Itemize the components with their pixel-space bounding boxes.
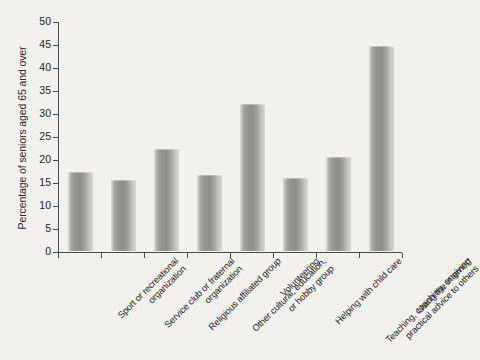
y-tick: 25: [58, 137, 59, 138]
y-tick: 5: [58, 229, 59, 230]
y-tick-mark: [53, 206, 58, 207]
y-tick-mark: [53, 160, 58, 161]
y-tick-mark: [53, 229, 58, 230]
y-tick: 30: [58, 114, 59, 115]
y-tick-mark: [53, 183, 58, 184]
bar: [240, 104, 265, 251]
y-tick-mark: [53, 45, 58, 46]
bar: [197, 175, 222, 251]
y-tick-label: 25: [29, 130, 51, 142]
y-tick-label: 20: [29, 153, 51, 165]
x-axis-labels: Sport or recreationalorganizationService…: [58, 254, 418, 360]
y-tick-label: 15: [29, 176, 51, 188]
y-tick-mark: [53, 68, 58, 69]
y-tick-label: 10: [29, 199, 51, 211]
y-tick-mark: [53, 114, 58, 115]
plot-area: 50454035302520151050: [58, 22, 402, 252]
y-tick-label: 0: [29, 245, 51, 257]
y-tick-label: 35: [29, 84, 51, 96]
y-tick: 10: [58, 206, 59, 207]
y-tick-mark: [53, 137, 58, 138]
y-tick: 35: [58, 91, 59, 92]
y-tick: 15: [58, 183, 59, 184]
y-tick-label: 30: [29, 107, 51, 119]
y-tick-label: 45: [29, 38, 51, 50]
y-tick: 40: [58, 68, 59, 69]
y-tick: 50: [58, 22, 59, 23]
bar: [326, 157, 351, 251]
y-tick-mark: [53, 91, 58, 92]
bar: [283, 178, 308, 251]
bar: [369, 46, 394, 251]
y-tick-label: 40: [29, 61, 51, 73]
y-axis-title: Percentage of seniors aged 65 and over: [14, 22, 30, 254]
y-tick-mark: [53, 22, 58, 23]
bar: [68, 172, 93, 251]
y-tick-label: 5: [29, 222, 51, 234]
y-tick: 45: [58, 45, 59, 46]
bar: [154, 149, 179, 251]
bar: [111, 180, 136, 251]
y-tick-label: 50: [29, 15, 51, 27]
x-axis-label: Helping with child care: [333, 256, 404, 327]
y-tick: 20: [58, 160, 59, 161]
